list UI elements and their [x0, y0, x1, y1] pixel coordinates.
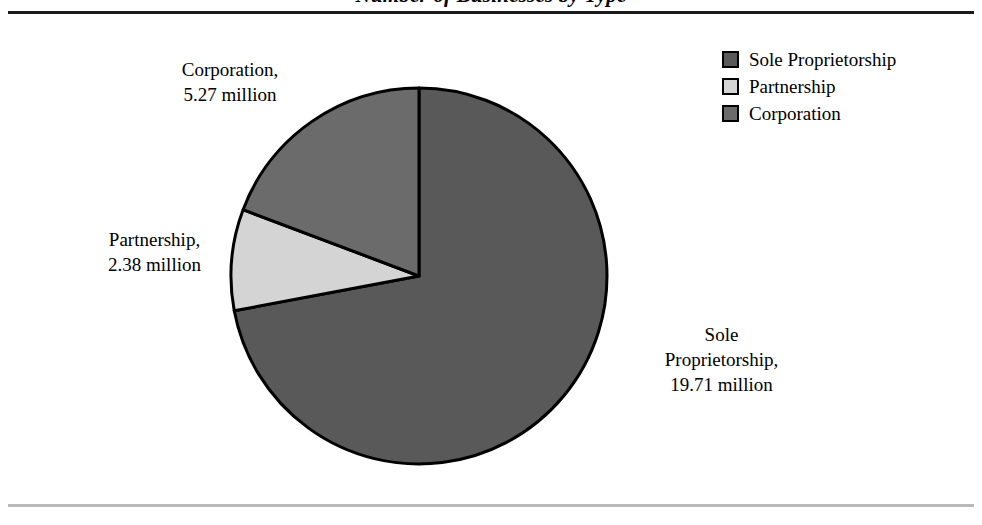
- legend-label: Corporation: [749, 104, 841, 123]
- chart-title: Number of Businesses by Type: [0, 0, 982, 8]
- pie-chart-svg: [228, 85, 610, 467]
- legend-swatch-icon: [722, 78, 739, 95]
- callout-partnership: Partnership, 2.38 million: [62, 227, 247, 277]
- legend-swatch-icon: [722, 105, 739, 122]
- callout-corporation-line2: 5.27 million: [130, 82, 330, 107]
- chart-page: Number of Businesses by Type Corporation…: [0, 0, 982, 525]
- legend-item-sole-proprietorship[interactable]: Sole Proprietorship: [722, 46, 896, 73]
- legend-swatch-icon: [722, 51, 739, 68]
- legend-item-partnership[interactable]: Partnership: [722, 73, 896, 100]
- callout-partnership-line1: Partnership,: [62, 227, 247, 252]
- callout-corporation: Corporation, 5.27 million: [130, 57, 330, 107]
- pie-chart: [228, 85, 610, 467]
- callout-sole-line3: 19.71 million: [600, 372, 843, 397]
- top-divider-rule: [8, 11, 974, 14]
- callout-partnership-line2: 2.38 million: [62, 252, 247, 277]
- legend-label: Sole Proprietorship: [749, 50, 896, 69]
- legend-label: Partnership: [749, 77, 836, 96]
- callout-sole-proprietorship: Sole Proprietorship, 19.71 million: [600, 322, 843, 397]
- callout-corporation-line1: Corporation,: [130, 57, 330, 82]
- callout-sole-line2: Proprietorship,: [600, 347, 843, 372]
- bottom-divider-rule: [8, 504, 974, 507]
- legend-item-corporation[interactable]: Corporation: [722, 100, 896, 127]
- callout-sole-line1: Sole: [600, 322, 843, 347]
- legend: Sole Proprietorship Partnership Corporat…: [722, 46, 896, 127]
